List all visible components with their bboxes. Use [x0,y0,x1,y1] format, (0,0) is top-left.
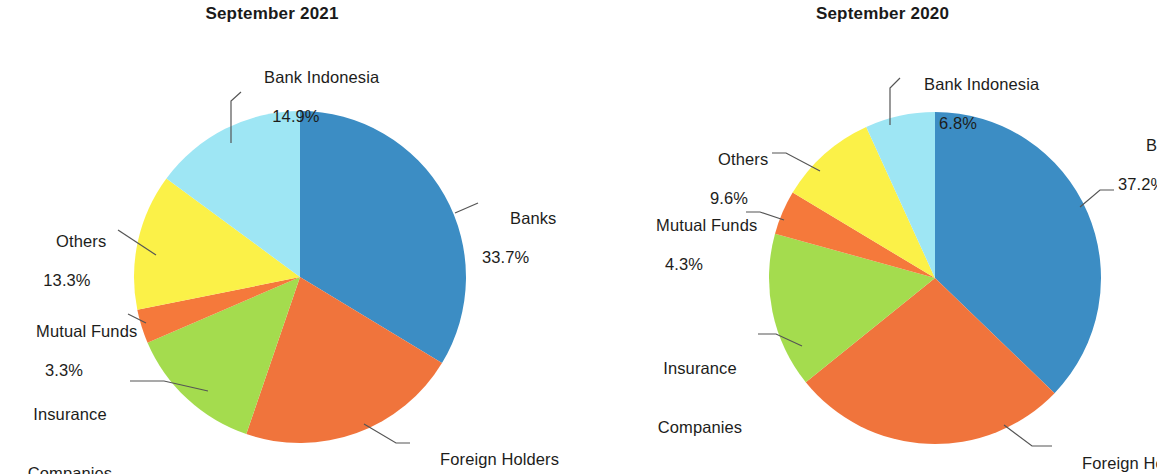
leader-banks-2020 [1080,190,1114,207]
label-banks-name-2021: Banks [510,209,556,227]
label-banks-name-2020: Banks [1146,136,1157,154]
label-foreign-holders-2020: Foreign Holders 27.0% [1054,434,1157,474]
leader-foreign-holders-2020 [1004,425,1052,446]
label-foreign-holders-name-2020: Foreign Holders [1082,454,1157,472]
chart-panel-september-2021: September 2021 [0,0,580,474]
label-foreign-holders-name-2021: Foreign Holders [440,450,559,468]
label-others-name-2021: Others [56,232,106,250]
label-bank-indonesia-value-2021: 14.9% [236,107,356,127]
chart-panel-september-2020: September 2020 [580,0,1157,474]
label-bank-indonesia-name-2021: Bank Indonesia [264,68,379,86]
label-banks-value-2020: 37.2% [1118,175,1157,195]
label-others-value-2021: 13.3% [28,271,106,291]
label-banks-2021: Banks 33.7% [482,189,574,306]
label-mutual-funds-value-2021: 3.3% [8,361,120,381]
label-insurance-pension-2020: Insurance Companies and Pension Funds 15… [646,320,754,474]
label-foreign-holders-2021: Foreign Holders 21.6% [412,430,582,474]
label-others-2020: Others 9.6% [690,130,768,247]
label-others-value-2020: 9.6% [690,189,768,209]
label-mutual-funds-value-2020: 4.3% [628,255,740,275]
label-others-name-2020: Others [718,150,768,168]
leader-banks-2021 [455,203,478,213]
label-insurance-line1-2020: Insurance [646,359,754,379]
label-bank-indonesia-2021: Bank Indonesia 14.9% [236,48,356,165]
label-bank-indonesia-2020: Bank Indonesia 6.8% [896,55,1020,172]
label-banks-2020: Banks 37.2% [1118,116,1157,233]
label-bank-indonesia-name-2020: Bank Indonesia [924,75,1039,93]
label-others-2021: Others 13.3% [28,212,106,329]
label-banks-value-2021: 33.7% [482,248,574,268]
label-insurance-line2-2021: Companies [16,464,124,474]
pie-chart-figure: September 2021 [0,0,1157,474]
label-bank-indonesia-value-2020: 6.8% [896,114,1020,134]
label-insurance-line2-2020: Companies [646,418,754,438]
